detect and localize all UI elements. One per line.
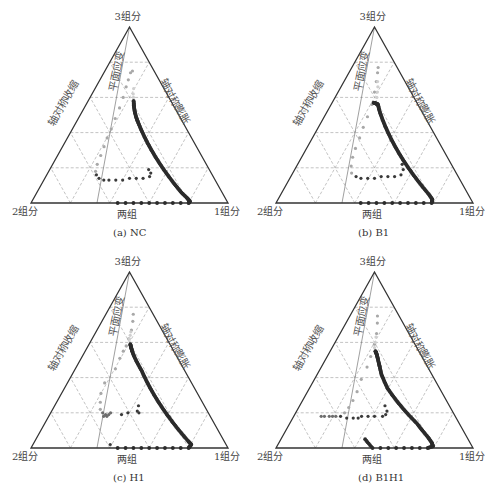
base-mid-label: 两组 [362, 210, 382, 220]
vertex-label-left: 2组分 [12, 207, 38, 217]
series-secondary-dark [354, 163, 404, 180]
base-mid-label: 两组 [117, 455, 137, 465]
base-mid-label: 两组 [362, 455, 382, 465]
panel-caption: (a) NC [113, 228, 146, 238]
ternary-panel-b1h1: 3组分2组分1组分两组(d) B1H1轴对称收缩轴对称膨胀平面应变 [245, 245, 490, 490]
vertex-label-right: 1组分 [459, 207, 485, 217]
vertex-label-top: 3组分 [360, 12, 386, 22]
series-cluster-mid [101, 411, 112, 418]
vertex-label-left: 2组分 [12, 452, 38, 462]
ternary-panel-b1: 3组分2组分1组分两组(b) B1轴对称收缩轴对称膨胀平面应变 [245, 0, 490, 245]
vertex-label-top: 3组分 [115, 257, 141, 267]
vertex-label-right: 1组分 [214, 452, 240, 462]
series-transition-light [132, 87, 136, 99]
panel-caption: (d) B1H1 [358, 473, 404, 483]
vertex-label-left: 2组分 [257, 207, 283, 217]
series-secondary-dark [339, 404, 389, 420]
base-mid-label: 两组 [117, 210, 137, 220]
vertex-label-top: 3组分 [360, 257, 386, 267]
panel-caption: (c) H1 [113, 473, 145, 483]
ternary-panel-h1: 3组分2组分1组分两组(c) H1轴对称收缩轴对称膨胀平面应变 [0, 245, 245, 490]
vertex-label-left: 2组分 [257, 452, 283, 462]
panel-caption: (b) B1 [358, 228, 389, 238]
ternary-panel-nc: 3组分2组分1组分两组(a) NC轴对称收缩轴对称膨胀平面应变 [0, 0, 245, 245]
vertex-label-right: 1组分 [459, 452, 485, 462]
series-secondary-dark [109, 404, 141, 446]
vertex-label-right: 1组分 [214, 207, 240, 217]
vertex-label-top: 3组分 [115, 12, 141, 22]
series-cluster-mid [320, 415, 338, 418]
